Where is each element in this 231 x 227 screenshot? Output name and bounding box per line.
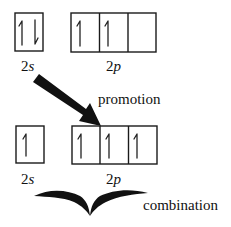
orbital-diagram: 2s 2p promotion 2s 2p bbox=[0, 0, 231, 227]
top-2s-orbital bbox=[15, 13, 43, 51]
combination-brace-icon bbox=[34, 190, 148, 216]
top-2p-label: 2p bbox=[106, 58, 122, 74]
orbital-box bbox=[15, 13, 43, 51]
top-row: 2s 2p bbox=[15, 13, 156, 74]
top-2s-label: 2s bbox=[21, 58, 35, 74]
orbital-box bbox=[16, 126, 44, 163]
promotion-arrow-icon bbox=[33, 74, 101, 126]
combination-label: combination bbox=[143, 197, 218, 213]
promotion-label: promotion bbox=[98, 91, 161, 107]
bottom-2s-orbital bbox=[16, 126, 44, 163]
top-2p-orbital bbox=[71, 13, 156, 52]
bottom-row: 2s 2p bbox=[16, 126, 157, 187]
bottom-2p-orbital bbox=[72, 126, 157, 164]
bottom-2s-label: 2s bbox=[21, 171, 35, 187]
bottom-2p-label: 2p bbox=[106, 171, 122, 187]
orbital-box-group bbox=[72, 126, 157, 164]
orbital-box-group bbox=[71, 13, 156, 52]
